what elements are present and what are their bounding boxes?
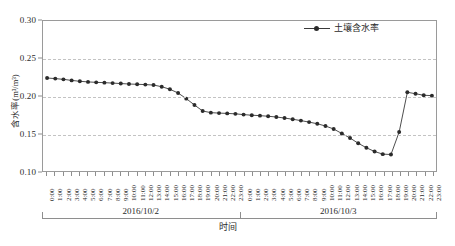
data-point-marker: [315, 122, 319, 126]
data-point-marker: [348, 136, 352, 140]
data-point-marker: [258, 114, 262, 118]
data-point-marker: [364, 146, 368, 150]
x-axis-tick-label: 1:00: [57, 189, 64, 201]
x-axis-tick-label: 3:00: [271, 189, 278, 201]
x-axis-tick-label: 15:00: [370, 185, 377, 201]
data-point-marker: [86, 80, 90, 84]
data-point-marker: [94, 80, 98, 84]
group-separator: [240, 212, 241, 219]
data-point-marker: [307, 120, 311, 124]
x-axis-tick-label: 19:00: [205, 185, 212, 201]
x-axis-tick-label: 15:00: [173, 185, 180, 201]
data-point-marker: [135, 82, 139, 86]
series-soil-moisture: [43, 21, 436, 171]
data-point-marker: [176, 91, 180, 95]
data-point-marker: [192, 103, 196, 107]
x-axis-title: 时间: [0, 222, 455, 233]
x-axis-tick-label: 10:00: [329, 185, 336, 201]
data-point-marker: [61, 77, 65, 81]
data-point-marker: [414, 92, 418, 96]
x-axis-tick-label: 21:00: [419, 185, 426, 201]
x-axis-tick-label: 12:00: [148, 185, 155, 201]
x-axis-tick-label: 23:00: [238, 185, 245, 201]
x-axis-tick-label: 1:00: [255, 189, 262, 201]
x-axis-tick-label: 3:00: [74, 189, 81, 201]
x-axis-tick-label: 19:00: [403, 185, 410, 201]
y-axis-tick-label: 0.30: [20, 16, 36, 25]
chart-legend: 土壤含水率: [302, 22, 381, 34]
x-axis-tick-label: 20:00: [214, 185, 221, 201]
y-axis-tick-label: 0.10: [20, 168, 36, 177]
x-axis-tick-label: 2:00: [66, 189, 73, 201]
x-axis-group-label: 2016/10/3: [320, 206, 357, 216]
data-point-marker: [217, 111, 221, 115]
data-point-marker: [242, 113, 246, 117]
x-axis-tick-label: 11:00: [140, 185, 147, 201]
group-separator: [436, 212, 437, 219]
legend-marker-icon: [304, 24, 330, 32]
x-axis-tick-label: 17:00: [189, 185, 196, 201]
data-point-marker: [233, 112, 237, 116]
x-axis-tick-label: 4:00: [82, 189, 89, 201]
data-point-marker: [356, 141, 360, 145]
y-axis: 0.300.250.200.150.10: [0, 0, 42, 192]
y-axis-tick-label: 0.25: [20, 54, 36, 63]
data-point-marker: [299, 119, 303, 123]
data-point-marker: [283, 116, 287, 120]
x-axis-tick-labels: 0:001:002:003:004:005:006:007:008:009:00…: [42, 176, 437, 202]
data-point-marker: [152, 83, 156, 87]
x-axis-group-band: 2016/10/22016/10/3: [42, 206, 437, 222]
x-axis-tick-label: 17:00: [387, 185, 394, 201]
gridline: [43, 135, 436, 136]
x-axis-tick-label: 0:00: [247, 189, 254, 201]
data-point-marker: [323, 124, 327, 128]
x-axis-tick-label: 18:00: [395, 185, 402, 201]
x-axis-tick-label: 14:00: [362, 185, 369, 201]
series-line: [47, 78, 432, 155]
gridline: [43, 97, 436, 98]
data-point-marker: [102, 81, 106, 85]
x-axis-tick-label: 2:00: [263, 189, 270, 201]
data-point-marker: [111, 81, 115, 85]
x-axis-tick-label: 8:00: [115, 189, 122, 201]
x-axis-tick-label: 16:00: [378, 185, 385, 201]
x-axis-tick-label: 6:00: [296, 189, 303, 201]
data-point-marker: [78, 79, 82, 83]
data-point-marker: [45, 76, 49, 80]
x-axis-tick-label: 9:00: [321, 189, 328, 201]
data-point-marker: [332, 127, 336, 131]
data-point-marker: [373, 150, 377, 154]
data-point-marker: [201, 109, 205, 113]
x-axis-tick-label: 14:00: [164, 185, 171, 201]
x-axis-tick-label: 6:00: [98, 189, 105, 201]
legend-label: 土壤含水率: [334, 23, 379, 33]
group-separator: [42, 212, 43, 219]
data-point-marker: [160, 85, 164, 89]
data-point-marker: [225, 111, 229, 115]
data-point-marker: [397, 130, 401, 134]
data-point-marker: [70, 78, 74, 82]
data-point-marker: [143, 83, 147, 87]
y-axis-title: 含水率(m³/m³): [10, 58, 20, 144]
data-point-marker: [119, 82, 123, 86]
data-point-marker: [168, 87, 172, 91]
x-axis-tick-label: 23:00: [436, 185, 443, 201]
data-point-marker: [266, 114, 270, 118]
data-point-marker: [209, 111, 213, 115]
x-axis-tick-label: 8:00: [312, 189, 319, 201]
x-axis-tick-label: 4:00: [280, 189, 287, 201]
data-point-marker: [405, 90, 409, 94]
x-axis-tick-label: 12:00: [345, 185, 352, 201]
x-axis-tick-label: 21:00: [222, 185, 229, 201]
x-axis-tick-label: 16:00: [181, 185, 188, 201]
x-axis-tick-label: 10:00: [131, 185, 138, 201]
data-point-marker: [250, 113, 254, 117]
data-point-marker: [291, 117, 295, 121]
data-point-marker: [274, 115, 278, 119]
x-axis-tick-label: 22:00: [428, 185, 435, 201]
data-point-marker: [53, 77, 57, 81]
y-axis-tick-label: 0.20: [20, 92, 36, 101]
x-axis-tick-label: 7:00: [107, 189, 114, 201]
data-point-marker: [381, 152, 385, 156]
gridline: [43, 59, 436, 60]
